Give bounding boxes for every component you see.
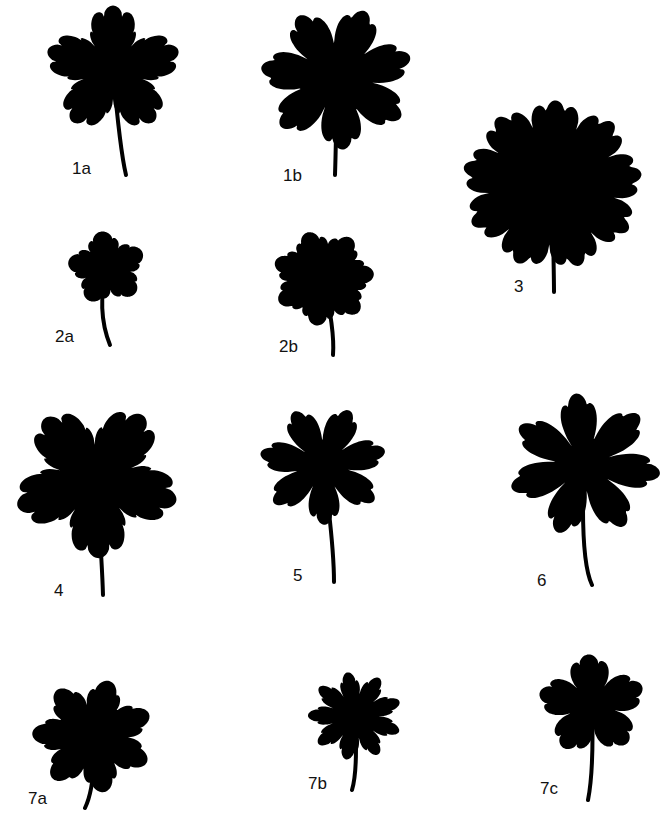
leaf-label-7c: 7c bbox=[540, 780, 558, 797]
leaf-4 bbox=[17, 412, 176, 595]
leaf-label-6: 6 bbox=[537, 572, 546, 589]
leaf-blade bbox=[47, 6, 178, 126]
leaf-7a bbox=[32, 681, 149, 808]
leaf-stem bbox=[335, 78, 337, 175]
leaf-2a bbox=[68, 232, 143, 346]
leaf-label-2b: 2b bbox=[279, 338, 298, 355]
leaf-stem bbox=[552, 185, 554, 292]
leaf-label-2a: 2a bbox=[55, 328, 74, 345]
leaf-label-7a: 7a bbox=[28, 790, 47, 807]
leaf-3 bbox=[464, 100, 642, 292]
leaf-1b bbox=[261, 11, 410, 175]
leaf-label-3: 3 bbox=[514, 278, 523, 295]
leaf-silhouettes bbox=[0, 0, 665, 816]
leaf-5 bbox=[261, 410, 385, 582]
leaf-label-7b: 7b bbox=[308, 775, 327, 792]
leaf-6 bbox=[511, 394, 660, 585]
leaf-label-4: 4 bbox=[54, 582, 63, 599]
leaf-label-5: 5 bbox=[293, 567, 302, 584]
leaf-label-1a: 1a bbox=[72, 160, 91, 177]
leaf-label-1b: 1b bbox=[283, 167, 302, 184]
leaf-blade bbox=[511, 394, 660, 533]
leaf-7b bbox=[308, 672, 400, 790]
leaf-1a bbox=[47, 6, 178, 175]
leaf-figure-plate: 1a1b32a2b4567a7b7c bbox=[0, 0, 665, 816]
